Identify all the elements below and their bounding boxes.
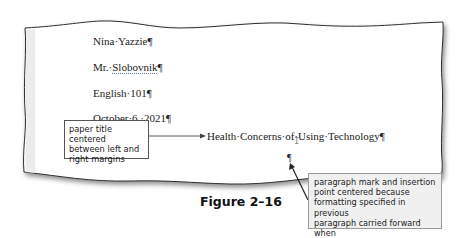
doc-text: Mr.· <box>93 61 112 73</box>
callout-line: paragraph mark and insertion <box>314 177 436 187</box>
callout-title-centered: paper title centered between left and ri… <box>64 120 149 159</box>
callout-line: paper title centered <box>69 124 144 144</box>
callout-line: right margins <box>69 154 144 164</box>
empty-paragraph-mark[interactable]: ¶ <box>287 152 292 163</box>
doc-line-instructor: Mr.·Slobovnik¶ <box>93 61 162 73</box>
figure-caption: Figure 2–16 <box>200 194 282 209</box>
callout-line: point centered because <box>314 187 436 197</box>
paragraph-mark: ¶ <box>157 61 162 73</box>
doc-line-name: Nina·Yazzie¶ <box>93 35 152 47</box>
i-beam-cursor-icon: I <box>294 136 299 146</box>
callout-line: paragraph carried forward when <box>314 218 436 238</box>
callout-paragraph-mark: paragraph mark and insertion point cente… <box>308 173 442 229</box>
callout-line: formatting specified in previous <box>314 197 436 217</box>
spelling-flagged-word[interactable]: Slobovnik <box>112 61 157 73</box>
margin-strip <box>25 29 35 173</box>
doc-line-course: English·101¶ <box>93 87 152 99</box>
callout-line: between left and <box>69 144 144 154</box>
figure-stage: Nina·Yazzie¶ Mr.·Slobovnik¶ English·101¶… <box>0 0 467 238</box>
